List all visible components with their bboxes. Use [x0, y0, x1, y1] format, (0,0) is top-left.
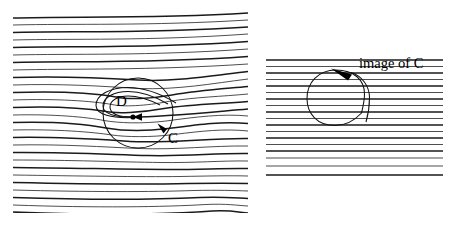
figure-background	[0, 0, 452, 228]
domain-label-d: D	[116, 93, 127, 109]
figure-root: D C	[0, 0, 452, 228]
conformal-map-figure: D C	[0, 0, 452, 228]
image-of-c-label: image of C	[359, 55, 423, 71]
contour-label-c: C	[168, 130, 178, 146]
